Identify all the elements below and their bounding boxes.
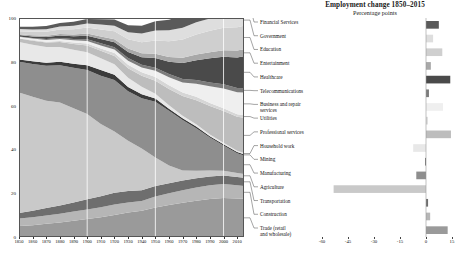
bar-rect: [426, 35, 433, 43]
area-y-tick-label: 80: [11, 59, 16, 64]
stacked-area-chart: [19, 18, 244, 237]
bar-chart: [322, 18, 452, 237]
legend-leader-line: [244, 18, 258, 237]
legend-item-label: Trade (retail and wholesale): [260, 225, 291, 237]
bar-rect: [426, 21, 439, 29]
legend-leader-line: [244, 18, 258, 237]
series-legend: Financial ServicesGovernmentEducationEnt…: [244, 18, 319, 237]
area-x-tick-label: 1970: [178, 239, 187, 244]
area-x-tick-label: 2000: [219, 239, 228, 244]
area-y-tick-label: 60: [11, 103, 16, 108]
area-x-tick-label: 1930: [123, 239, 132, 244]
legend-item-label: Telecommunications: [260, 88, 303, 94]
area-x-tick-label: 2010: [233, 239, 242, 244]
page-title: Employment change 1850–2015: [300, 1, 450, 9]
legend-item-label: Mining: [260, 156, 275, 162]
bar-rect: [426, 213, 430, 221]
bar-x-tick-label: -45: [345, 239, 351, 244]
legend-item-label: Construction: [260, 211, 287, 217]
bar-x-tick-label: -15: [397, 239, 403, 244]
bar-rect: [426, 89, 429, 97]
legend-leader-line: [244, 18, 258, 237]
area-x-tick-label: 1850: [14, 239, 23, 244]
title-block: Employment change 1850–2015 Percentage p…: [300, 1, 450, 16]
legend-item-label: Utilities: [260, 115, 277, 121]
bar-x-tick-label: -60: [319, 239, 325, 244]
bar-svg: [322, 18, 452, 237]
area-y-axis: 020406080100: [0, 18, 18, 237]
area-x-tick-label: 1940: [137, 239, 146, 244]
legend-leader-line: [244, 18, 258, 237]
area-x-tick-label: 1980: [192, 239, 201, 244]
legend-leader-line: [244, 18, 258, 237]
area-x-tick-label: 1920: [110, 239, 119, 244]
area-x-tick-label: 1880: [55, 239, 64, 244]
chart-figure: Employment change 1850–2015 Percentage p…: [0, 0, 456, 254]
legend-item-label: Transportation: [260, 198, 290, 204]
legend-item-label: Financial Services: [260, 19, 298, 25]
area-x-tick-label: 1950: [151, 239, 160, 244]
legend-leader-line: [244, 18, 258, 237]
area-x-tick-label: 1960: [164, 239, 173, 244]
bar-x-tick-label: 15: [450, 239, 455, 244]
legend-leader-line: [244, 18, 258, 237]
area-svg: [19, 18, 244, 237]
bar-rect: [426, 62, 431, 70]
area-x-tick-label: 1870: [42, 239, 51, 244]
legend-item-label: Household work: [260, 143, 294, 149]
legend-leader-line: [244, 18, 258, 237]
legend-item-label: Government: [260, 33, 286, 39]
area-x-tick-label: 1910: [96, 239, 105, 244]
bar-rect: [426, 226, 448, 234]
area-x-tick-label: 1890: [69, 239, 78, 244]
legend-item-label: Healthcare: [260, 74, 282, 80]
legend-item-label: Entertainment: [260, 60, 289, 66]
bar-x-tick-label: -30: [371, 239, 377, 244]
chart-subtitle: Percentage points: [300, 9, 450, 16]
bar-rect: [426, 48, 442, 56]
bar-rect: [416, 172, 426, 180]
area-x-axis: 1850186018701880189019001910192019301940…: [19, 237, 244, 251]
area-y-tick-label: 100: [9, 16, 17, 21]
legend-leader-line: [244, 18, 258, 237]
bar-rect: [426, 199, 428, 207]
legend-leader-line: [244, 18, 258, 237]
bar-x-tick-label: 0: [425, 239, 427, 244]
legend-item-label: Professional services: [260, 129, 304, 135]
legend-item-label: Manufacturing: [260, 170, 291, 176]
bar-x-axis: -60-45-30-15015: [322, 237, 452, 251]
bar-rect: [426, 131, 451, 139]
area-y-tick-label: 20: [11, 191, 16, 196]
legend-leader-line: [244, 18, 258, 237]
bar-rect: [426, 103, 443, 111]
bar-rect: [413, 144, 426, 152]
legend-leader-line: [244, 18, 258, 237]
bar-rect: [426, 76, 450, 84]
area-x-tick-label: 1900: [83, 239, 92, 244]
bar-rect: [334, 185, 426, 193]
area-x-tick-label: 1860: [28, 239, 37, 244]
legend-item-label: Business and repair services: [260, 101, 301, 113]
legend-leader-line: [244, 18, 258, 237]
legend-leader-line: [244, 18, 258, 237]
legend-item-label: Education: [260, 46, 281, 52]
area-y-tick-label: 40: [11, 147, 16, 152]
legend-item-label: Agriculture: [260, 184, 284, 190]
legend-leader-line: [244, 18, 258, 237]
area-x-tick-label: 1990: [205, 239, 214, 244]
legend-leader-line: [244, 18, 258, 237]
